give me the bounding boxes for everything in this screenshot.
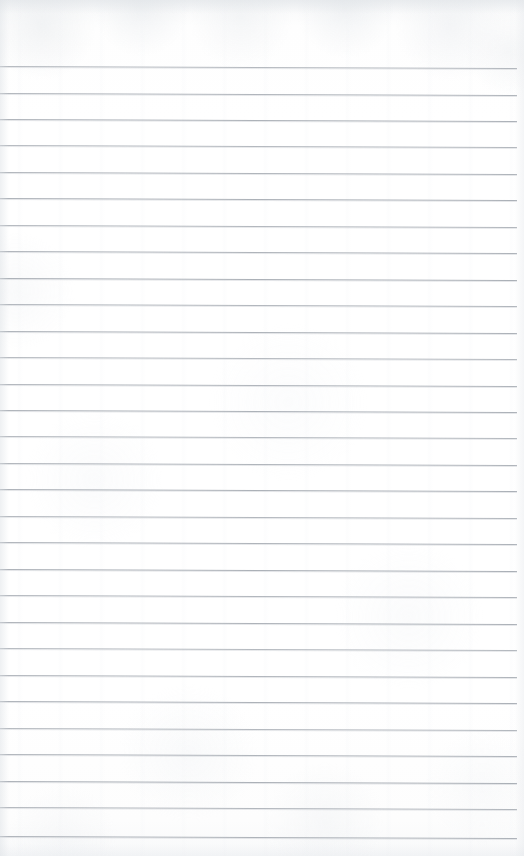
page-header-margin [0, 0, 524, 66]
paper-background [0, 0, 524, 856]
scanned-page [0, 0, 524, 856]
